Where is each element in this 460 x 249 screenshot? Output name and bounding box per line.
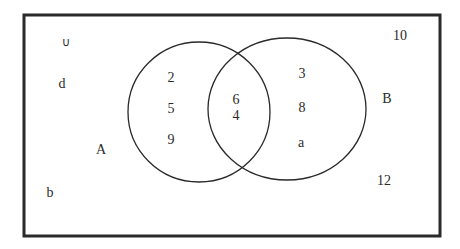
element-outside-d: d — [59, 77, 66, 91]
universe-box — [24, 15, 440, 236]
element-b-only-8: 8 — [299, 101, 306, 115]
element-b-only-3: 3 — [299, 67, 306, 81]
set-a-circle — [128, 42, 270, 182]
element-a-only-2: 2 — [168, 71, 175, 85]
universe-symbol: ∪ — [62, 35, 71, 49]
element-outside-b: b — [47, 186, 54, 200]
element-outside-12: 12 — [377, 174, 391, 188]
element-both-4: 4 — [233, 109, 240, 123]
set-b-label: B — [382, 92, 391, 106]
set-a-label: A — [96, 143, 106, 157]
element-outside-10: 10 — [393, 29, 407, 43]
element-both-6: 6 — [233, 93, 240, 107]
element-a-only-9: 9 — [168, 133, 175, 147]
element-a-only-5: 5 — [168, 102, 175, 116]
element-b-only-a: a — [298, 136, 304, 150]
